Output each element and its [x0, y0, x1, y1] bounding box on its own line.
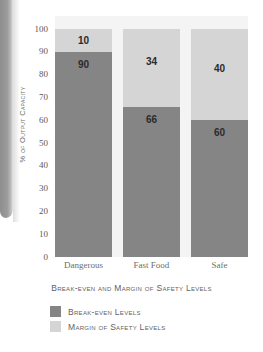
- bar-segment-break-even[interactable]: [191, 120, 248, 257]
- y-axis-title: % of Output Capacity: [18, 70, 27, 180]
- plot-area: 109034664060: [55, 29, 248, 257]
- bar-segment-margin-of-safety[interactable]: [123, 29, 180, 107]
- y-axis-tick-label: 90: [8, 47, 48, 56]
- y-axis-tick-label: 40: [8, 161, 48, 170]
- legend-item-label: Break-even Levels: [68, 307, 141, 317]
- chart-legend: Break-even LevelsMargin of Safety Levels: [50, 306, 165, 336]
- bar-value-label-margin-of-safety: 34: [123, 56, 180, 67]
- bar-segment-margin-of-safety[interactable]: [191, 29, 248, 120]
- legend-item[interactable]: Margin of Safety Levels: [50, 321, 165, 332]
- x-axis-title: Break-even and Margin of Safety Levels: [0, 283, 263, 293]
- bar-group[interactable]: 3466: [123, 29, 180, 257]
- bar-value-label-margin-of-safety: 40: [191, 63, 248, 74]
- y-axis-tick-label: 50: [8, 139, 48, 148]
- stacked-bar-chart: 1009080706050403020100 % of Output Capac…: [0, 0, 263, 352]
- bar-group[interactable]: 1090: [55, 29, 112, 257]
- y-axis-tick-label: 10: [8, 230, 48, 239]
- bar-segment-break-even[interactable]: [123, 107, 180, 257]
- y-axis-tick-label: 80: [8, 70, 48, 79]
- y-axis-tick-label: 70: [8, 93, 48, 102]
- legend-item-label: Margin of Safety Levels: [68, 322, 165, 332]
- x-axis-category-label: Dangerous: [55, 260, 112, 270]
- y-axis-tick-label: 0: [8, 253, 48, 262]
- bar-group[interactable]: 4060: [191, 29, 248, 257]
- x-axis-category-label: Safe: [191, 260, 248, 270]
- bar-value-label-break-even: 60: [191, 127, 248, 138]
- y-axis-tick-label: 20: [8, 207, 48, 216]
- bar-segment-break-even[interactable]: [55, 52, 112, 257]
- legend-item[interactable]: Break-even Levels: [50, 306, 165, 317]
- bar-value-label-break-even: 66: [123, 114, 180, 125]
- y-axis-tick-label: 60: [8, 116, 48, 125]
- bar-value-label-break-even: 90: [55, 59, 112, 70]
- y-axis-tick-label: 100: [8, 25, 48, 34]
- legend-color-swatch: [50, 306, 61, 317]
- y-axis-tick-label: 30: [8, 184, 48, 193]
- x-axis-category-label: Fast Food: [123, 260, 180, 270]
- legend-color-swatch: [50, 321, 61, 332]
- bar-value-label-margin-of-safety: 10: [55, 35, 112, 46]
